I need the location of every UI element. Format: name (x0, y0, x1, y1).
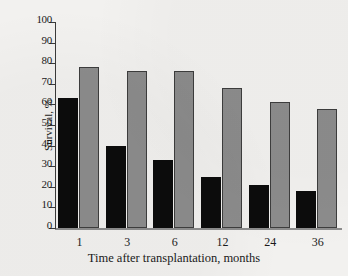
x-tick-label: 12 (201, 235, 244, 250)
y-tick-label: 90 (42, 35, 52, 46)
y-tick-label: 50 (42, 117, 52, 128)
bar-gray-series-1 (79, 67, 99, 228)
y-tick-label: 60 (42, 96, 52, 107)
bar-dark-series-6 (153, 160, 173, 228)
bar-groups: 136122436 (56, 22, 342, 228)
x-tick-label: 36 (296, 235, 339, 250)
bar-group: 24 (247, 22, 295, 228)
x-tick-label: 3 (106, 235, 149, 250)
y-tick-label: 80 (42, 55, 52, 66)
x-axis-title: Time after transplantation, months (0, 251, 348, 266)
bar-group: 12 (199, 22, 247, 228)
x-tick-label: 1 (58, 235, 101, 250)
y-tick-label: 40 (42, 138, 52, 149)
bar-dark-series-36 (296, 191, 316, 228)
x-tick-label: 6 (153, 235, 196, 250)
plot-area: Survival, % 0102030405060708090100 13612… (56, 22, 342, 228)
bar-gray-series-24 (270, 102, 290, 228)
y-tick-label: 0 (47, 220, 52, 231)
x-tick-label: 24 (249, 235, 292, 250)
bar-dark-series-1 (58, 98, 78, 228)
bar-dark-series-3 (106, 146, 126, 228)
bar-gray-series-12 (222, 88, 242, 228)
bar-gray-series-36 (317, 109, 337, 228)
y-tick-label: 100 (36, 14, 52, 25)
bar-dark-series-24 (249, 185, 269, 228)
bar-gray-series-6 (174, 71, 194, 228)
bar-group: 36 (294, 22, 342, 228)
y-tick-label: 70 (42, 76, 52, 87)
y-tick-label: 20 (42, 179, 52, 190)
bar-dark-series-12 (201, 177, 221, 229)
x-axis-line (55, 228, 342, 230)
bar-group: 1 (56, 22, 104, 228)
bar-gray-series-3 (127, 71, 147, 228)
survival-bar-chart: Survival, % 0102030405060708090100 13612… (0, 0, 348, 276)
y-tick-label: 30 (42, 158, 52, 169)
bar-group: 3 (104, 22, 152, 228)
bar-group: 6 (151, 22, 199, 228)
y-tick-label: 10 (42, 199, 52, 210)
